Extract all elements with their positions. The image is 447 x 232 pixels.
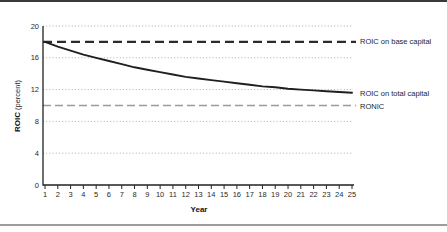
x-tick-label-17: 17 — [245, 190, 253, 199]
bottom-divider-rule — [0, 224, 447, 226]
x-tick-label-16: 16 — [233, 190, 241, 199]
x-tick-label-23: 23 — [322, 190, 330, 199]
y-tick-label-8: 8 — [35, 117, 39, 126]
x-tick-label-6: 6 — [107, 190, 111, 199]
x-tick-label-2: 2 — [56, 190, 60, 199]
x-tick-label-12: 12 — [182, 190, 190, 199]
legend-roic-total-capital: ROIC on total capital — [360, 89, 429, 98]
y-axis-title-units: (percent) — [13, 80, 22, 110]
roic-decay-chart-figure: 1234567891011121314151617181920212223242… — [0, 0, 447, 232]
x-tick-label-1: 1 — [43, 190, 47, 199]
y-tick-label-0: 0 — [35, 181, 39, 190]
x-axis-title: Year — [191, 205, 208, 214]
y-axis-title: ROIC(percent) — [13, 80, 22, 132]
y-axis-title-bold: ROIC — [13, 112, 22, 132]
x-tick-label-7: 7 — [120, 190, 124, 199]
y-tick-label-16: 16 — [31, 53, 39, 62]
x-tick-label-20: 20 — [284, 190, 292, 199]
x-tick-label-10: 10 — [156, 190, 164, 199]
x-tick-label-13: 13 — [194, 190, 202, 199]
legend-roic-base-capital: ROIC on base capital — [360, 37, 431, 46]
y-tick-label-4: 4 — [35, 149, 39, 158]
x-tick-label-25: 25 — [348, 190, 356, 199]
x-tick-label-5: 5 — [94, 190, 98, 199]
x-tick-label-9: 9 — [145, 190, 149, 199]
x-tick-label-24: 24 — [335, 190, 343, 199]
x-tick-label-11: 11 — [169, 190, 177, 199]
x-tick-label-19: 19 — [271, 190, 279, 199]
x-tick-label-4: 4 — [81, 190, 85, 199]
x-tick-label-15: 15 — [220, 190, 228, 199]
chart-svg: 1234567891011121314151617181920212223242… — [0, 0, 447, 232]
x-tick-label-21: 21 — [297, 190, 305, 199]
legend-ronic: RONIC — [360, 102, 384, 111]
x-tick-label-8: 8 — [132, 190, 136, 199]
x-tick-label-18: 18 — [258, 190, 266, 199]
x-tick-label-22: 22 — [309, 190, 317, 199]
x-tick-label-3: 3 — [68, 190, 72, 199]
x-tick-label-14: 14 — [207, 190, 215, 199]
y-tick-label-12: 12 — [31, 85, 39, 94]
y-tick-label-20: 20 — [31, 22, 39, 31]
series-line-roic-on-total-capital — [45, 42, 352, 93]
